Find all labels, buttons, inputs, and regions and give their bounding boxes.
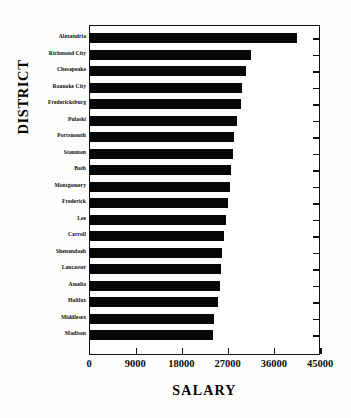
y-axis-tick bbox=[313, 253, 319, 254]
y-axis-tick bbox=[313, 302, 319, 303]
category-label: Pulaski bbox=[0, 116, 86, 122]
bar bbox=[90, 198, 228, 208]
bar-chart-figure: DISTRICT SALARY AlexandriaRichmond CityC… bbox=[0, 0, 351, 418]
y-axis-tick bbox=[313, 55, 319, 56]
category-label: Halifax bbox=[0, 297, 86, 303]
y-axis-tick bbox=[313, 170, 319, 171]
x-axis-tick bbox=[182, 348, 183, 354]
x-axis-tick-label: 45000 bbox=[290, 358, 350, 369]
category-label: Shenandoah bbox=[0, 248, 86, 254]
x-axis-title: SALARY bbox=[89, 383, 320, 399]
bar-row bbox=[90, 248, 321, 258]
category-label: Montgomery bbox=[0, 182, 86, 188]
bar bbox=[90, 281, 220, 291]
bar bbox=[90, 248, 222, 258]
y-axis-tick bbox=[313, 319, 319, 320]
category-label: Roanoke City bbox=[0, 83, 86, 89]
y-axis-tick bbox=[313, 137, 319, 138]
category-label: Portsmouth bbox=[0, 132, 86, 138]
y-axis-tick bbox=[313, 104, 319, 105]
y-axis-tick bbox=[313, 220, 319, 221]
category-label: Richmond City bbox=[0, 50, 86, 56]
y-axis-tick bbox=[313, 236, 319, 237]
bar bbox=[90, 99, 241, 109]
bar-row bbox=[90, 297, 321, 307]
bar-row bbox=[90, 149, 321, 159]
bar bbox=[90, 165, 231, 175]
bar bbox=[90, 330, 213, 340]
plot-area bbox=[89, 25, 320, 355]
bar-row bbox=[90, 231, 321, 241]
bar-row bbox=[90, 330, 321, 340]
y-axis-tick bbox=[313, 121, 319, 122]
bar-row bbox=[90, 66, 321, 76]
bar-row bbox=[90, 281, 321, 291]
bar-row bbox=[90, 182, 321, 192]
category-label: Lee bbox=[0, 215, 86, 221]
category-label: Madison bbox=[0, 330, 86, 336]
bar-row bbox=[90, 264, 321, 274]
category-label: Middlesex bbox=[0, 314, 86, 320]
bar-row bbox=[90, 33, 321, 43]
category-label: Chesapeake bbox=[0, 66, 86, 72]
bar bbox=[90, 83, 242, 93]
bar bbox=[90, 264, 221, 274]
bar bbox=[90, 314, 214, 324]
y-axis-tick bbox=[313, 286, 319, 287]
y-axis-tick bbox=[313, 269, 319, 270]
x-axis-tick bbox=[136, 348, 137, 354]
category-label: Frederick bbox=[0, 198, 86, 204]
category-label: Amelia bbox=[0, 281, 86, 287]
bar-row bbox=[90, 198, 321, 208]
bar-row bbox=[90, 83, 321, 93]
category-label: Staunton bbox=[0, 149, 86, 155]
bar-row bbox=[90, 99, 321, 109]
bar bbox=[90, 116, 237, 126]
bar bbox=[90, 231, 224, 241]
bar-row bbox=[90, 116, 321, 126]
y-axis-tick bbox=[313, 88, 319, 89]
bar-row bbox=[90, 50, 321, 60]
y-axis-tick bbox=[313, 154, 319, 155]
y-axis-tick bbox=[313, 335, 319, 336]
y-axis-tick bbox=[313, 187, 319, 188]
bar bbox=[90, 215, 226, 225]
bar bbox=[90, 297, 218, 307]
bar bbox=[90, 149, 233, 159]
bar bbox=[90, 66, 246, 76]
category-label: Bath bbox=[0, 165, 86, 171]
category-label: Fredericksburg bbox=[0, 99, 86, 105]
category-label: Alexandria bbox=[0, 33, 86, 39]
bar bbox=[90, 182, 230, 192]
bar-row bbox=[90, 215, 321, 225]
x-axis-tick bbox=[320, 348, 321, 354]
x-axis-tick bbox=[274, 348, 275, 354]
y-axis-tick bbox=[313, 203, 319, 204]
bar bbox=[90, 50, 251, 60]
category-label: Lancaster bbox=[0, 264, 86, 270]
category-label: Carroll bbox=[0, 231, 86, 237]
bar-row bbox=[90, 132, 321, 142]
bar bbox=[90, 33, 297, 43]
bar bbox=[90, 132, 234, 142]
bar-row bbox=[90, 165, 321, 175]
x-axis-tick bbox=[228, 348, 229, 354]
y-axis-tick bbox=[313, 38, 319, 39]
y-axis-tick bbox=[313, 71, 319, 72]
bar-row bbox=[90, 314, 321, 324]
